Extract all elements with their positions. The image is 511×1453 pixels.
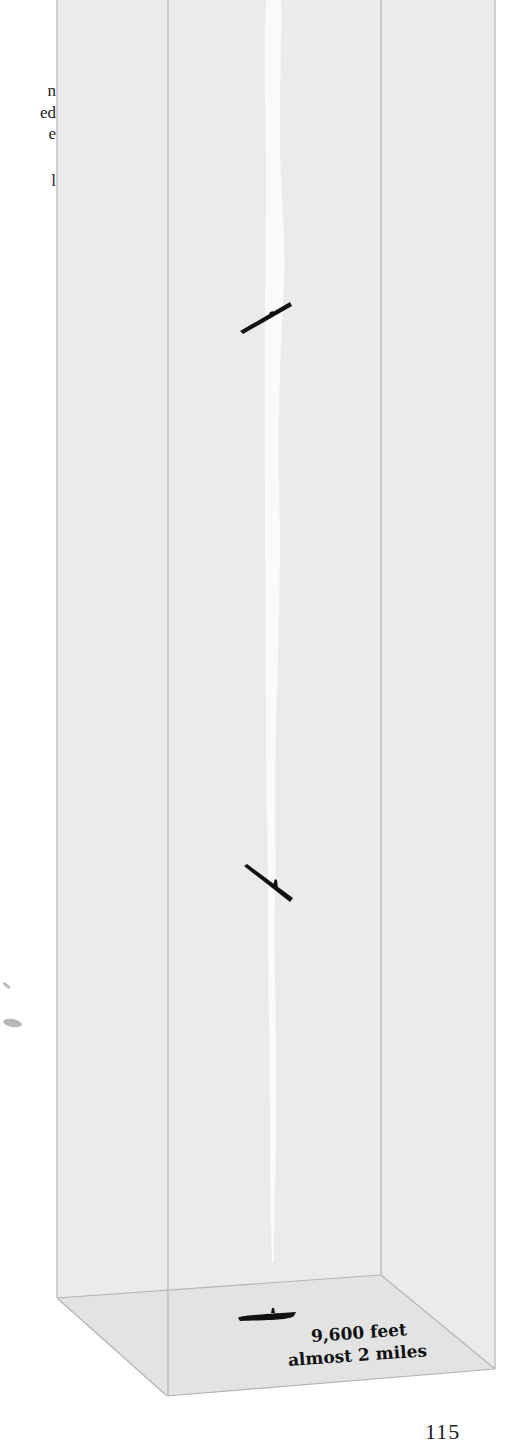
depth-column-diagram	[0, 0, 511, 1453]
page-number: 115	[425, 1419, 460, 1445]
